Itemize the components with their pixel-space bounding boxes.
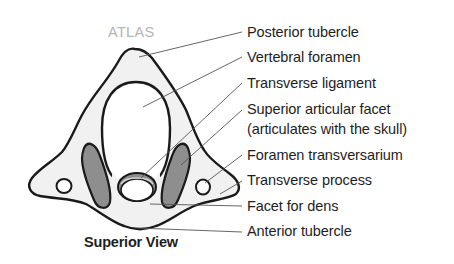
label-anterior-tubercle: Anterior tubercle <box>247 223 352 240</box>
label-transverse-process: Transverse process <box>247 172 372 189</box>
diagram-title: ATLAS <box>108 24 154 40</box>
label-superior-articular-facet: Superior articular facet <box>247 101 390 118</box>
label-posterior-tubercle: Posterior tubercle <box>247 24 359 41</box>
label-vertebral-foramen: Vertebral foramen <box>247 49 361 66</box>
left-foramen-transversarium <box>57 179 72 193</box>
diagram-caption: Superior View <box>84 234 178 250</box>
vertebral-foramen-shape <box>102 82 170 184</box>
leader-anterior-tubercle <box>137 228 242 232</box>
leader-posterior-tubercle <box>139 32 242 57</box>
label-facet-for-dens: Facet for dens <box>247 198 338 215</box>
label-foramen-transversarium: Foramen transversarium <box>247 147 403 164</box>
right-foramen-transversarium <box>196 180 210 195</box>
label-transverse-ligament: Transverse ligament <box>247 75 376 92</box>
dens-opening <box>121 179 153 201</box>
label-superior-articular-facet-note: (articulates with the skull) <box>247 121 407 138</box>
